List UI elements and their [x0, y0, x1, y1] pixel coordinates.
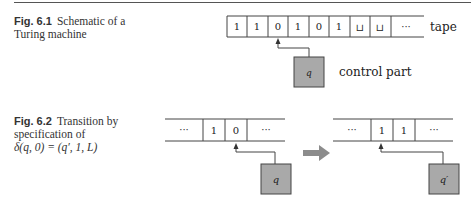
figure-6-2-label: Fig. 6.2 [14, 115, 52, 127]
tape-cell: 1 [401, 125, 407, 136]
tape-label: tape [430, 20, 457, 34]
figure-6-2-caption: Fig. 6.2Transition by specification of δ… [14, 115, 118, 154]
head-connector [381, 146, 443, 164]
head-arrow-icon [234, 143, 239, 149]
ellipsis-cell: ··· [347, 124, 357, 135]
blank-cell: ⊔ [376, 22, 384, 33]
ellipsis-cell: ··· [261, 124, 271, 135]
ellipsis-cell: ··· [401, 21, 411, 32]
state-label: q′ [440, 174, 449, 185]
tape-cell: 1 [295, 21, 301, 32]
right-arrow-icon [303, 145, 330, 161]
tape-cell: 1 [211, 125, 217, 136]
head-arrow-icon [276, 38, 281, 44]
head-arrow-icon [379, 143, 384, 149]
tape-cell: 1 [336, 21, 342, 32]
top-rule-right [228, 2, 471, 3]
tape-cell: 0 [316, 21, 322, 32]
tape-cell-head: 0 [275, 21, 281, 32]
tape-cell-head: 0 [233, 125, 239, 136]
state-label: q [273, 174, 279, 185]
ellipsis-cell: ··· [429, 124, 439, 135]
control-label: control part [339, 65, 412, 79]
blank-cell: ⊔ [356, 22, 364, 33]
state-label: q [306, 68, 312, 78]
tape-cell: 1 [379, 125, 385, 136]
head-connector [236, 146, 275, 164]
tape-cell: 1 [254, 21, 260, 32]
ellipsis-cell: ··· [179, 124, 189, 135]
figure-6-1-diagram: 1 1 0 1 0 1 ⊔ ⊔ ··· tape q control part … [0, 0, 471, 205]
tape-cell: 1 [234, 21, 240, 32]
